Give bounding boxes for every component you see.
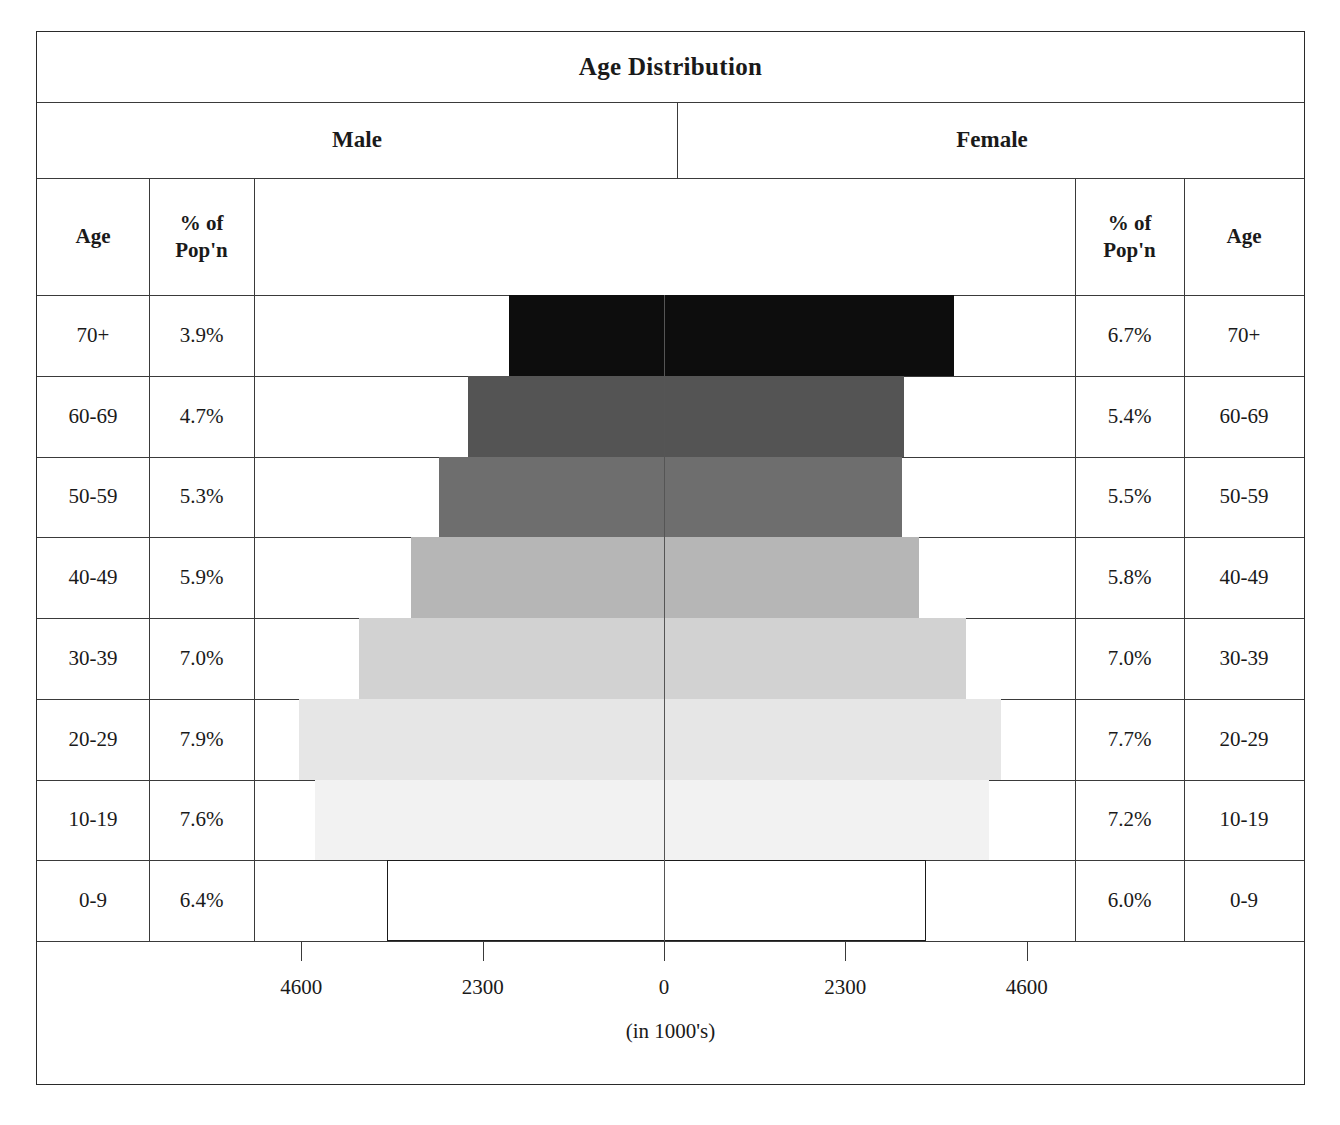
column-header-age-left: Age [37, 178, 149, 295]
pct-left-line2: Pop'n [175, 238, 228, 262]
cell-pct-female: 6.7% [1075, 295, 1184, 376]
cell-pct-female: 5.5% [1075, 457, 1184, 538]
column-header-age-left-label: Age [76, 223, 111, 249]
axis-baseline [37, 941, 1304, 942]
title-band: Age Distribution [37, 32, 1304, 102]
cell-age-left: 60-69 [37, 376, 149, 457]
pct-right-line1: % of [1108, 211, 1152, 235]
cell-pct-male: 7.6% [149, 780, 254, 861]
column-header-age-right: Age [1184, 178, 1304, 295]
cell-age-right: 70+ [1184, 295, 1304, 376]
cell-pct-male: 5.3% [149, 457, 254, 538]
cell-age-left: 30-39 [37, 618, 149, 699]
cell-pct-female: 7.2% [1075, 780, 1184, 861]
cell-pct-male: 4.7% [149, 376, 254, 457]
cell-age-left: 40-49 [37, 537, 149, 618]
cell-pct-female: 7.7% [1075, 699, 1184, 780]
sex-header-band: Male Female [37, 102, 1304, 178]
axis-tick [1027, 941, 1028, 961]
cell-age-left: 20-29 [37, 699, 149, 780]
pct-left-line1: % of [180, 211, 224, 235]
column-header-pct-left: % of Pop'n [149, 178, 254, 295]
axis-tick-label: 4600 [280, 975, 322, 1000]
table-row: 50-59 5.3% 5.5% 50-59 [37, 457, 1304, 538]
pct-right-line2: Pop'n [1103, 238, 1156, 262]
column-header-pct-right-label: % of Pop'n [1103, 210, 1156, 263]
axis-tick [664, 941, 665, 961]
cell-age-left: 70+ [37, 295, 149, 376]
cell-age-right: 30-39 [1184, 618, 1304, 699]
table-row: 60-69 4.7% 5.4% 60-69 [37, 376, 1304, 457]
table-row: 0-9 6.4% 6.0% 0-9 [37, 860, 1304, 941]
cell-age-left: 10-19 [37, 780, 149, 861]
axis-tick [483, 941, 484, 961]
cell-pct-male: 6.4% [149, 860, 254, 941]
population-pyramid-page: Age Distribution Male Female Age % of Po… [0, 0, 1340, 1125]
cell-pct-female: 7.0% [1075, 618, 1184, 699]
cell-pct-female: 5.8% [1075, 537, 1184, 618]
table-row: 20-29 7.9% 7.7% 20-29 [37, 699, 1304, 780]
column-header-band: Age % of Pop'n % of Pop'n Age [37, 178, 1304, 295]
cell-age-right: 60-69 [1184, 376, 1304, 457]
axis-tick [301, 941, 302, 961]
data-rows: 70+ 3.9% 6.7% 70+ 60-69 4.7% 5.4% 60-69 … [37, 295, 1304, 941]
cell-age-right: 20-29 [1184, 699, 1304, 780]
column-header-age-right-label: Age [1227, 223, 1262, 249]
axis-tick-label: 2300 [462, 975, 504, 1000]
cell-pct-male: 7.0% [149, 618, 254, 699]
table-row: 30-39 7.0% 7.0% 30-39 [37, 618, 1304, 699]
table-row: 10-19 7.6% 7.2% 10-19 [37, 780, 1304, 861]
axis-tick [845, 941, 846, 961]
cell-age-left: 50-59 [37, 457, 149, 538]
chart-frame: Age Distribution Male Female Age % of Po… [36, 31, 1305, 1085]
axis-tick-label: 2300 [824, 975, 866, 1000]
column-header-pct-left-label: % of Pop'n [175, 210, 228, 263]
header-female: Female [678, 102, 1306, 178]
x-axis: 46002300023004600 (in 1000's) [37, 941, 1304, 1084]
cell-age-right: 0-9 [1184, 860, 1304, 941]
page-title: Age Distribution [579, 53, 762, 81]
table-row: 40-49 5.9% 5.8% 40-49 [37, 537, 1304, 618]
table-row: 70+ 3.9% 6.7% 70+ [37, 295, 1304, 376]
header-male: Male [37, 102, 677, 178]
axis-tick-label: 0 [659, 975, 670, 1000]
axis-tick-label: 4600 [1006, 975, 1048, 1000]
cell-age-right: 40-49 [1184, 537, 1304, 618]
cell-pct-female: 5.4% [1075, 376, 1184, 457]
rule-male-female-split [677, 102, 678, 178]
cell-age-left: 0-9 [37, 860, 149, 941]
cell-pct-male: 3.9% [149, 295, 254, 376]
cell-age-right: 50-59 [1184, 457, 1304, 538]
cell-pct-male: 7.9% [149, 699, 254, 780]
cell-pct-female: 6.0% [1075, 860, 1184, 941]
cell-age-right: 10-19 [1184, 780, 1304, 861]
column-header-pct-right: % of Pop'n [1075, 178, 1184, 295]
axis-title: (in 1000's) [37, 1019, 1304, 1044]
cell-pct-male: 5.9% [149, 537, 254, 618]
